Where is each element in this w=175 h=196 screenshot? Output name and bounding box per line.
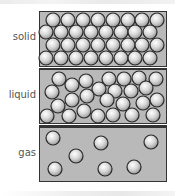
solid-particle (84, 51, 98, 65)
liquid-particle (146, 108, 160, 122)
gas-particle (94, 136, 108, 150)
solid-particle (128, 51, 142, 65)
liquid-particle (91, 109, 105, 123)
liquid-particle (62, 109, 76, 123)
solid-particle (143, 51, 157, 65)
solid-particle (106, 38, 120, 52)
gas-particle (98, 162, 112, 176)
solid-particle (143, 25, 157, 39)
solid-particle (39, 25, 53, 39)
gas-particle (144, 135, 158, 149)
liquid-particle (124, 84, 138, 98)
liquid-particle (65, 78, 79, 92)
liquid-particle (106, 108, 120, 122)
solid-particle (54, 51, 68, 65)
solid-particle (39, 51, 53, 65)
solid-particle (150, 38, 164, 52)
solid-particle (128, 25, 142, 39)
solid-particle (114, 25, 128, 39)
liquid-particle (125, 108, 139, 122)
liquid-particle (65, 93, 79, 107)
liquid-particle (52, 72, 66, 86)
gas-particle (46, 131, 60, 145)
liquid-particle (51, 99, 65, 113)
solid-particle (99, 51, 113, 65)
liquid-particle (40, 109, 54, 123)
particles-layer (0, 0, 175, 196)
liquid-particle (45, 85, 59, 99)
liquid-particle (150, 93, 164, 107)
liquid-particle (79, 74, 93, 88)
solid-particle (121, 38, 135, 52)
liquid-particle (136, 96, 150, 110)
solid-particle (84, 25, 98, 39)
liquid-particle (77, 104, 91, 118)
solid-particle (99, 25, 113, 39)
gas-particle (48, 162, 62, 176)
bottom-edge-strip (0, 191, 175, 196)
solid-particle (135, 38, 149, 52)
solid-particle (54, 25, 68, 39)
solid-particle (46, 38, 60, 52)
liquid-particle (100, 93, 114, 107)
solid-particle (61, 38, 75, 52)
liquid-particle (139, 81, 153, 95)
gas-particle (127, 160, 141, 174)
liquid-particle (80, 89, 94, 103)
solid-particle (114, 51, 128, 65)
solid-particle (69, 51, 83, 65)
solid-particle (76, 38, 90, 52)
solid-particle (91, 38, 105, 52)
solid-particle (69, 25, 83, 39)
gas-particle (69, 149, 83, 163)
